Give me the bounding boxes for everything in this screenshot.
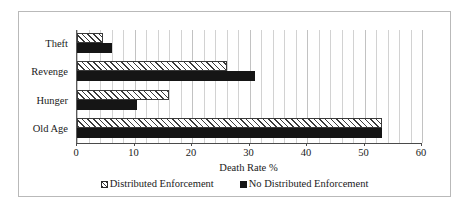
x-tick-label: 60: [404, 147, 438, 159]
x-tick-label: 50: [347, 147, 381, 159]
bar-group: [77, 58, 422, 86]
category-label: Old Age: [0, 123, 68, 134]
x-axis-tick: [76, 143, 77, 146]
chart-legend: Distributed Enforcement No Distributed E…: [19, 178, 450, 190]
x-tick-label: 10: [117, 147, 151, 159]
bar[interactable]: [77, 90, 169, 100]
x-tick-label: 0: [59, 147, 93, 159]
legend-entry-label: Distributed Enforcement: [110, 178, 214, 190]
bar[interactable]: [77, 33, 103, 43]
bar-group: [77, 30, 422, 58]
legend-entry[interactable]: No Distributed Enforcement: [240, 178, 369, 190]
x-axis-tick: [306, 143, 307, 146]
x-axis-tick: [364, 143, 365, 146]
x-axis-tick: [134, 143, 135, 146]
bar-group: [77, 87, 422, 115]
chart-figure: TheftRevengeHungerOld Age 0102030405060 …: [18, 11, 451, 197]
bar-group: [77, 115, 422, 143]
x-axis-tick: [249, 143, 250, 146]
hatched-square-icon: [101, 181, 108, 188]
legend-entry[interactable]: Distributed Enforcement: [101, 178, 214, 190]
bar[interactable]: [77, 100, 137, 110]
x-axis-tick: [191, 143, 192, 146]
bar[interactable]: [77, 43, 112, 53]
bar[interactable]: [77, 61, 227, 71]
category-label: Revenge: [0, 66, 68, 77]
filled-square-icon: [240, 181, 247, 188]
x-axis-tick: [421, 143, 422, 146]
legend-entry-label: No Distributed Enforcement: [249, 178, 369, 190]
x-tick-label: 20: [174, 147, 208, 159]
gridline: [422, 30, 423, 143]
bar[interactable]: [77, 71, 255, 81]
plot-area: [76, 30, 421, 143]
x-tick-label: 40: [289, 147, 323, 159]
x-tick-label: 30: [232, 147, 266, 159]
category-label: Hunger: [0, 95, 68, 106]
category-label: Theft: [0, 38, 68, 49]
bar[interactable]: [77, 128, 382, 138]
bar[interactable]: [77, 118, 382, 128]
x-axis-title: Death Rate %: [76, 162, 421, 173]
